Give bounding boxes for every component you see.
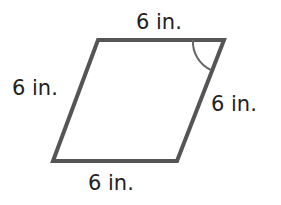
bottom-side-label: 6 in. <box>88 173 134 194</box>
right-side-label: 6 in. <box>211 94 257 115</box>
angle-arc <box>193 40 211 70</box>
left-side-label: 6 in. <box>12 78 58 99</box>
top-side-label: 6 in. <box>136 12 182 33</box>
